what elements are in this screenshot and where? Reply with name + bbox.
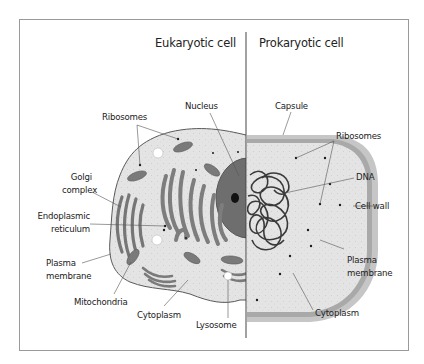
label-er-line1: Endoplasmic (24, 210, 90, 223)
label-cytoplasm-euk: Cytoplasm (137, 309, 181, 322)
label-ribosomes-prok: Ribosomes (336, 130, 381, 143)
label-cytoplasm-prok: Cytoplasm (315, 307, 359, 320)
label-nucleus: Nucleus (185, 100, 218, 113)
label-plasma-line2-prok: membrane (347, 267, 392, 280)
prokaryotic-title: Prokaryotic cell (259, 36, 344, 50)
label-golgi-complex: Golgi complex (62, 171, 92, 196)
label-cell-wall: Cell wall (355, 200, 389, 213)
label-plasma-membrane-euk: Plasma membrane (46, 257, 91, 282)
nucleolus (231, 193, 239, 203)
label-capsule: Capsule (275, 100, 308, 113)
label-plasma-membrane-prok: Plasma membrane (347, 254, 392, 279)
label-dna: DNA (356, 171, 374, 184)
eukaryotic-title: Eukaryotic cell (155, 36, 236, 50)
label-ribosomes-euk: Ribosomes (102, 111, 147, 124)
label-plasma-line2-euk: membrane (46, 270, 91, 283)
label-plasma-line1-euk: Plasma (46, 257, 91, 270)
label-plasma-line1-prok: Plasma (347, 254, 392, 267)
label-golgi-line2: complex (62, 184, 92, 197)
label-lysosome: Lysosome (196, 319, 237, 332)
label-golgi-line1: Golgi (62, 171, 92, 184)
label-mitochondria: Mitochondria (74, 296, 128, 309)
label-endoplasmic-reticulum: Endoplasmic reticulum (24, 210, 90, 235)
label-er-line2: reticulum (24, 223, 90, 236)
